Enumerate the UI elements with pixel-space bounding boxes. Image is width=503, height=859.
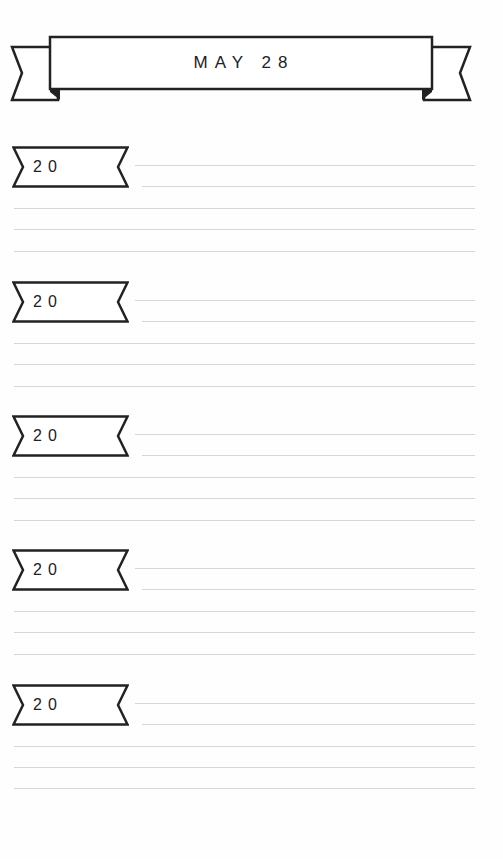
writing-line[interactable] — [14, 632, 475, 633]
year-prefix: 20 — [33, 146, 63, 188]
writing-line[interactable] — [14, 208, 475, 209]
writing-line[interactable] — [142, 455, 475, 456]
writing-line[interactable] — [14, 788, 475, 789]
year-entry: 20 — [0, 281, 503, 416]
year-tag-icon — [12, 415, 129, 457]
year-prefix: 20 — [33, 415, 63, 457]
journal-page: MAY 28 20 20 20 — [0, 0, 503, 859]
writing-line[interactable] — [135, 165, 475, 166]
writing-line[interactable] — [135, 703, 475, 704]
year-entry: 20 — [0, 684, 503, 819]
writing-line[interactable] — [142, 589, 475, 590]
year-tag-icon — [12, 146, 129, 188]
writing-line[interactable] — [14, 746, 475, 747]
writing-line[interactable] — [14, 520, 475, 521]
writing-line[interactable] — [135, 434, 475, 435]
writing-line[interactable] — [14, 386, 475, 387]
writing-line[interactable] — [14, 229, 475, 230]
writing-line[interactable] — [14, 343, 475, 344]
writing-line[interactable] — [142, 724, 475, 725]
year-entry: 20 — [0, 146, 503, 281]
date-banner: MAY 28 — [0, 0, 503, 110]
writing-line[interactable] — [142, 321, 475, 322]
writing-line[interactable] — [14, 364, 475, 365]
year-tag-icon — [12, 549, 129, 591]
year-tag-icon — [12, 684, 129, 726]
year-tag-icon — [12, 281, 129, 323]
writing-line[interactable] — [14, 611, 475, 612]
year-entry: 20 — [0, 415, 503, 550]
writing-line[interactable] — [14, 477, 475, 478]
year-entry: 20 — [0, 549, 503, 684]
writing-line[interactable] — [14, 654, 475, 655]
writing-line[interactable] — [142, 186, 475, 187]
year-prefix: 20 — [33, 549, 63, 591]
date-title: MAY 28 — [50, 37, 432, 89]
year-prefix: 20 — [33, 281, 63, 323]
writing-line[interactable] — [14, 251, 475, 252]
year-prefix: 20 — [33, 684, 63, 726]
writing-line[interactable] — [135, 568, 475, 569]
writing-line[interactable] — [14, 498, 475, 499]
writing-line[interactable] — [135, 300, 475, 301]
writing-line[interactable] — [14, 767, 475, 768]
